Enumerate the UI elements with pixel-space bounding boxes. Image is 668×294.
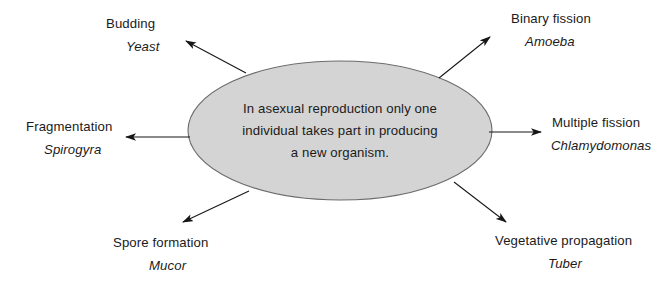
node-multiple-fission: Multiple fission Chlamydomonas [552, 114, 651, 154]
node-multiple-fission-title: Multiple fission [552, 114, 651, 131]
arrow-budding [186, 41, 246, 73]
node-fragmentation-title: Fragmentation [26, 118, 112, 135]
center-statement-line-3: a new organism. [212, 142, 468, 164]
node-spore-formation: Spore formation Mucor [113, 234, 208, 274]
node-vegetative-propagation: Vegetative propagation Tuber [495, 232, 632, 272]
node-binary-fission: Binary fission Amoeba [511, 10, 591, 50]
node-fragmentation-example: Spirogyra [44, 141, 112, 158]
center-statement-line-2: individual takes part in producing [212, 120, 468, 142]
node-binary-fission-title: Binary fission [511, 10, 591, 27]
asexual-reproduction-diagram: In asexual reproduction only one individ… [0, 0, 668, 294]
node-spore-formation-example: Mucor [149, 257, 208, 274]
arrow-vegetative-propagation [454, 182, 506, 222]
node-multiple-fission-example: Chlamydomonas [551, 137, 651, 154]
center-statement-line-1: In asexual reproduction only one [212, 98, 468, 120]
arrow-spore-formation [183, 191, 249, 222]
node-fragmentation: Fragmentation Spirogyra [26, 118, 112, 158]
node-budding: Budding Yeast [106, 15, 160, 55]
node-budding-example: Yeast [126, 38, 160, 55]
node-binary-fission-example: Amoeba [525, 33, 591, 50]
arrow-binary-fission [439, 37, 490, 78]
center-statement: In asexual reproduction only one individ… [212, 98, 468, 164]
node-vegetative-propagation-example: Tuber [548, 255, 632, 272]
node-spore-formation-title: Spore formation [113, 234, 208, 251]
node-budding-title: Budding [106, 15, 160, 32]
node-vegetative-propagation-title: Vegetative propagation [495, 232, 632, 249]
